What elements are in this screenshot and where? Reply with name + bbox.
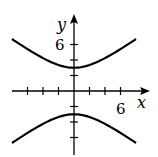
y-axis-label: y [56,15,67,34]
x-axis-label: x [137,93,146,112]
y-tick-label-6: 6 [55,36,65,54]
x-tick-label-6: 6 [116,100,126,118]
hyperbola-plot: y 6 x 6 [0,0,158,157]
